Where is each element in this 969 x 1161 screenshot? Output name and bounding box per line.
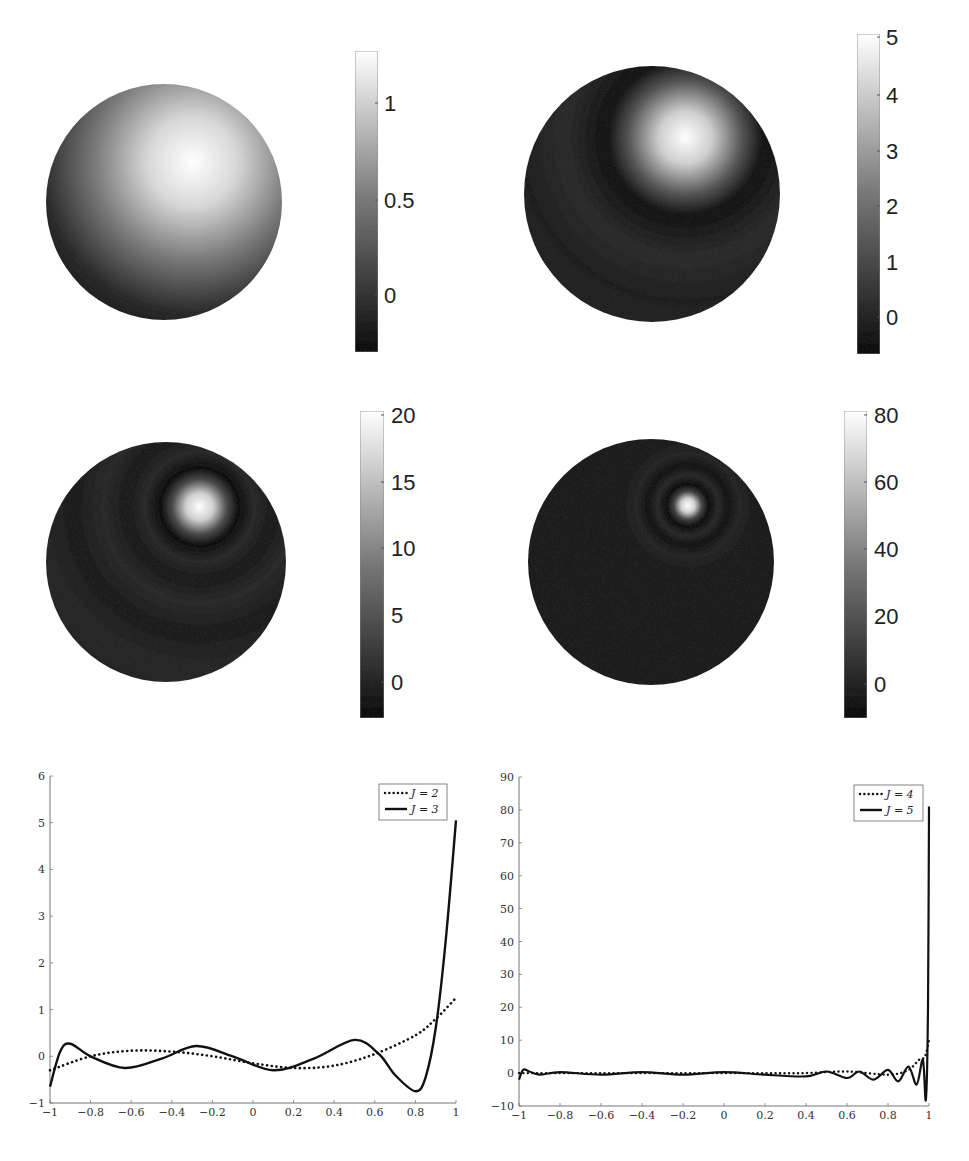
- colorbar-tick-label: 15: [391, 470, 415, 495]
- panel-sphere-j3: 5 4 3 2 1 0: [524, 25, 898, 354]
- x-tick-label: 1: [926, 1109, 933, 1122]
- y-tick-label: 0: [38, 1050, 45, 1063]
- sphere-surface: [524, 66, 780, 322]
- legend-label: J = 2: [409, 787, 439, 800]
- y-tick-label: −10: [491, 1100, 514, 1113]
- x-tick-label: −0.4: [158, 1106, 185, 1119]
- y-tick-label: 60: [500, 870, 514, 883]
- y-tick-label: 40: [500, 936, 514, 949]
- colorbar: 5 4 3 2 1 0: [857, 25, 898, 354]
- y-tick-label: 10: [500, 1034, 514, 1047]
- colorbar-tick-label: 80: [874, 403, 898, 428]
- x-tick-label: 1: [453, 1106, 460, 1119]
- y-tick-label: 90: [500, 771, 514, 784]
- x-tick-label: 0.8: [879, 1109, 897, 1122]
- colorbar-tick-label: 20: [391, 403, 415, 428]
- colorbar-tick-label: 1: [384, 91, 396, 116]
- y-tick-label: 1: [38, 1004, 45, 1017]
- y-tick-label: 20: [500, 1001, 514, 1014]
- colorbar-tick-label: 0: [391, 670, 403, 695]
- colorbar-tick-label: 0: [886, 305, 898, 330]
- x-tick-label: 0.2: [285, 1106, 303, 1119]
- x-tick-label: 0.6: [838, 1109, 856, 1122]
- x-tick-label: −0.8: [77, 1106, 104, 1119]
- plot-axes: −1−0.8−0.6−0.4−0.200.20.40.60.81−1001020…: [491, 771, 933, 1122]
- x-tick-label: 0.2: [756, 1109, 774, 1122]
- colorbar: 80 60 40 20 0: [844, 403, 898, 718]
- colorbar: 20 15 10 5 0: [360, 403, 415, 718]
- colorbar-tick-label: 1: [886, 250, 898, 275]
- x-tick-label: −0.2: [670, 1109, 697, 1122]
- x-tick-label: −0.4: [629, 1109, 656, 1122]
- colorbar-tick-label: 5: [886, 25, 898, 50]
- colorbar-tick-label: 4: [886, 83, 898, 108]
- colorbar-tick-label: 0: [874, 672, 886, 697]
- x-tick-label: −0.6: [588, 1109, 615, 1122]
- colorbar-tick-label: 3: [886, 139, 898, 164]
- x-tick-label: −0.8: [547, 1109, 574, 1122]
- y-tick-label: −1: [29, 1097, 45, 1110]
- x-tick-label: 0.4: [325, 1106, 343, 1119]
- colorbar-tick-label: 5: [391, 603, 403, 628]
- x-tick-label: 0.6: [366, 1106, 384, 1119]
- colorbar-tick-label: 2: [886, 194, 898, 219]
- line-plot-j4-j5: −1−0.8−0.6−0.4−0.200.20.40.60.81−1001020…: [491, 771, 933, 1122]
- colorbar: 1 0.5 0: [355, 51, 415, 352]
- panel-sphere-j2: 1 0.5 0: [46, 51, 415, 352]
- colorbar-tick-label: 20: [874, 604, 898, 629]
- y-tick-label: 30: [500, 968, 514, 981]
- plot-axes: −1−0.8−0.6−0.4−0.200.20.40.60.81−1012345…: [29, 770, 460, 1119]
- y-tick-label: 80: [500, 804, 514, 817]
- series-j2-dotted: [50, 998, 456, 1070]
- sphere-surface: [528, 439, 774, 685]
- y-tick-label: 2: [38, 957, 45, 970]
- x-tick-label: 0: [721, 1109, 728, 1122]
- legend-label: J = 3: [409, 803, 439, 816]
- y-tick-label: 50: [500, 903, 514, 916]
- series-j4-dotted: [519, 1040, 929, 1075]
- legend-label: J = 5: [884, 804, 914, 817]
- colorbar-tick-label: 0.5: [384, 188, 415, 213]
- x-tick-label: 0: [250, 1106, 257, 1119]
- y-tick-label: 70: [500, 837, 514, 850]
- y-tick-label: 3: [38, 910, 45, 923]
- x-tick-label: 0.4: [797, 1109, 815, 1122]
- x-tick-label: 0.8: [407, 1106, 425, 1119]
- colorbar-tick-label: 40: [874, 537, 898, 562]
- series-j5-solid: [519, 807, 929, 1101]
- sphere-surface: [46, 84, 282, 320]
- y-tick-label: 0: [507, 1067, 514, 1080]
- legend: J = 4 J = 5: [854, 785, 923, 821]
- sphere-surface: [46, 442, 286, 682]
- panel-sphere-j5: 80 60 40 20 0: [528, 403, 898, 718]
- y-tick-label: 6: [38, 770, 45, 783]
- figure-canvas: 1 0.5 0 5 4 3 2 1 0: [0, 0, 969, 1161]
- colorbar-tick-label: 10: [391, 536, 415, 561]
- series-j3-solid: [50, 820, 456, 1091]
- x-tick-label: −0.6: [118, 1106, 145, 1119]
- y-tick-label: 5: [38, 817, 45, 830]
- panel-sphere-j4: 20 15 10 5 0: [46, 403, 415, 718]
- line-plot-j2-j3: −1−0.8−0.6−0.4−0.200.20.40.60.81−1012345…: [29, 770, 460, 1119]
- legend-label: J = 4: [884, 788, 914, 801]
- x-tick-label: −0.2: [199, 1106, 226, 1119]
- colorbar-tick-label: 60: [874, 470, 898, 495]
- y-tick-label: 4: [38, 863, 45, 876]
- legend: J = 2 J = 3: [379, 784, 447, 820]
- colorbar-tick-label: 0: [384, 283, 396, 308]
